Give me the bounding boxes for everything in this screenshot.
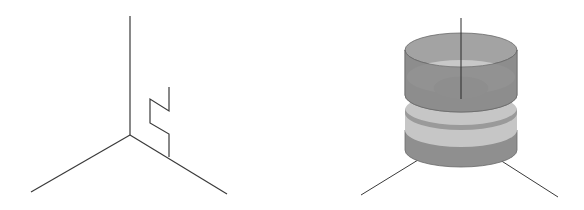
left-panel (31, 16, 227, 194)
right-panel (361, 18, 558, 197)
x-axis (361, 160, 418, 195)
figure-canvas (0, 0, 584, 210)
x-axis (31, 135, 130, 192)
y-axis (130, 135, 227, 194)
zigzag-path (150, 87, 169, 157)
y-axis (500, 160, 558, 197)
